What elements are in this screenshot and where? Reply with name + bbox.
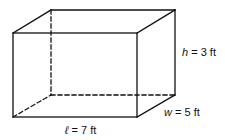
width-label: w = 5 ft (164, 106, 200, 118)
length-value: = 7 ft (69, 124, 97, 136)
top-left-depth-edge (13, 10, 51, 33)
hidden-bottom-left-depth-edge (13, 95, 51, 117)
top-right-depth-edge (137, 10, 175, 33)
length-label: ℓ = 7 ft (64, 124, 96, 136)
prism-diagram: h = 3 ft w = 5 ft ℓ = 7 ft (0, 0, 225, 140)
height-label: h = 3 ft (182, 46, 216, 58)
height-value: = 3 ft (188, 46, 216, 58)
front-face (13, 33, 137, 117)
width-value: = 5 ft (172, 106, 200, 118)
prism-figure: h = 3 ft w = 5 ft ℓ = 7 ft (0, 0, 225, 140)
